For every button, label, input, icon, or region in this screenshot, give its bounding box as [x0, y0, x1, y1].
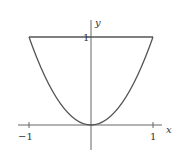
x-tick-label-pos1: 1 — [150, 131, 156, 142]
parabola-chart: −1 1 1 x y — [0, 0, 184, 157]
y-axis-label: y — [94, 17, 101, 28]
y-tick-label-1: 1 — [83, 32, 89, 43]
x-axis-label: x — [166, 124, 172, 135]
x-tick-label-neg1: −1 — [18, 131, 33, 142]
